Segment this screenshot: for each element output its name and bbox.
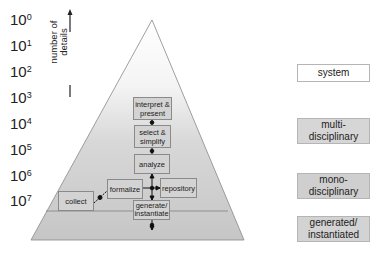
level-text: system xyxy=(318,67,350,79)
box-text: simplify xyxy=(140,137,165,146)
level-mono-disciplinary: mono- disciplinary xyxy=(297,173,370,199)
box-text: formalize xyxy=(110,185,140,194)
axis-arrow-icon xyxy=(68,9,73,97)
box-select-simplify: select & simplify xyxy=(134,125,171,148)
box-text: select & xyxy=(139,128,166,137)
box-analyze: analyze xyxy=(134,154,170,174)
box-interpret-present: interpret & present xyxy=(133,97,172,120)
box-collect: collect xyxy=(58,191,94,211)
level-text: mono- xyxy=(319,174,347,186)
level-multi-disciplinary: multi- disciplinary xyxy=(297,118,370,144)
box-text: repository xyxy=(162,184,195,193)
level-generated-instantiated: generated/ instantiated xyxy=(297,216,370,242)
box-repository: repository xyxy=(160,178,197,198)
level-text: generated/ xyxy=(310,217,358,229)
level-text: multi- xyxy=(321,119,345,131)
box-generate-instantiate: generate/ instantiate xyxy=(133,200,170,220)
level-text: instantiated xyxy=(308,229,359,241)
box-text: instantiate xyxy=(134,210,168,218)
level-text: disciplinary xyxy=(309,131,358,143)
box-text: analyze xyxy=(139,160,165,169)
level-text: disciplinary xyxy=(309,186,358,198)
box-formalize: formalize xyxy=(107,179,143,199)
level-system: system xyxy=(297,64,370,82)
box-text: present xyxy=(140,109,165,118)
box-text: collect xyxy=(65,197,86,206)
box-text: interpret & xyxy=(135,100,170,109)
